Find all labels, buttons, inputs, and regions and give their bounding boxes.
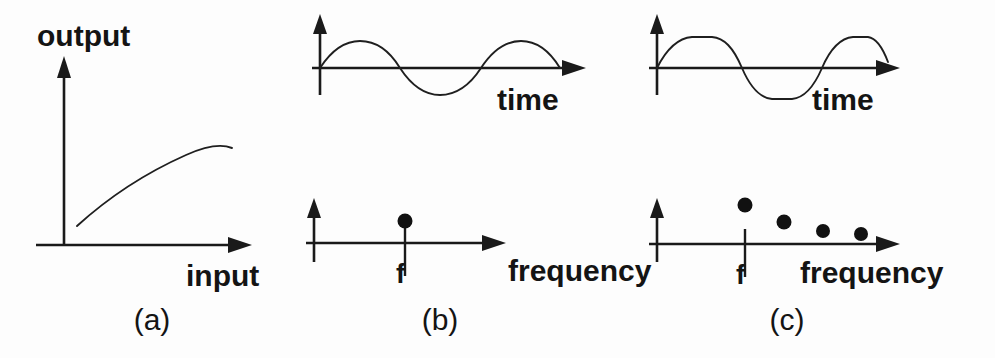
panel-c-spectral-dot-harmonic-3 [816, 224, 830, 238]
panel-a-y-axis-arrow-icon [57, 56, 71, 78]
panel-c-spectrum-plot: f frequency (c) [649, 198, 944, 337]
panel-b-spectrum-plot: f frequency (b) [306, 198, 652, 336]
panel-b-spectrum-y-axis-arrow-icon [307, 198, 321, 218]
panel-c-frequency-tick-label: f [736, 260, 746, 290]
panel-a: output input (a) [36, 19, 259, 336]
panel-c-time-axis-label: time [812, 83, 874, 116]
panel-b-frequency-axis-label: frequency [508, 254, 652, 287]
panel-c-spectrum-x-axis-arrow-icon [876, 236, 900, 252]
panel-a-x-axis-label: input [186, 259, 259, 292]
panel-b-time-axis-label: time [497, 83, 559, 116]
panel-b-time-plot: time [312, 14, 586, 116]
panel-c-frequency-axis-label: frequency [800, 256, 944, 289]
panel-a-caption: (a) [134, 303, 171, 336]
panel-a-x-axis-arrow-icon [228, 237, 252, 253]
panel-c-spectrum-y-axis-arrow-icon [650, 198, 664, 218]
panel-b-frequency-tick-label: f [396, 259, 406, 289]
panel-b-spectral-dot-fundamental [398, 214, 413, 229]
panel-c-caption: (c) [770, 303, 805, 336]
panel-c-spectral-dot-harmonic-2 [777, 215, 792, 230]
panel-b-time-x-axis-arrow-icon [562, 60, 586, 76]
panel-a-y-axis-label: output [37, 19, 130, 52]
panel-b-spectrum-x-axis-arrow-icon [482, 235, 506, 251]
figure-svg: output input (a) time f frequency [0, 0, 995, 358]
panel-c-time-y-axis-arrow-icon [650, 14, 664, 34]
panel-b-time-y-axis-arrow-icon [313, 14, 327, 34]
panel-c-spectral-dot-harmonic-4 [854, 227, 868, 241]
figure-container: output input (a) time f frequency [0, 0, 995, 358]
panel-c-spectral-dot-fundamental [738, 198, 753, 213]
panel-b-caption: (b) [422, 303, 459, 336]
panel-a-transfer-curve [77, 146, 232, 226]
panel-c-time-plot: time [649, 14, 900, 116]
